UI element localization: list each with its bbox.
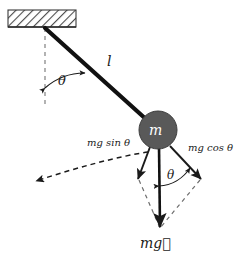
bob-mass-label: m (149, 122, 162, 138)
weight-label: mg⃗ (140, 236, 171, 250)
component-parallelogram (139, 180, 200, 228)
bob-angle-label: θ (167, 169, 174, 181)
mg-sin-theta-arrow (138, 147, 150, 179)
pendulum-figure: m θ l mg sin θ mg cos θ θ mg⃗ (0, 0, 242, 263)
angle-arc-bob (159, 168, 190, 186)
length-label: l (107, 54, 111, 68)
ceiling-support (8, 10, 76, 27)
pivot-angle-label: θ (58, 74, 66, 87)
mg-sin-theta-label: mg sin θ (87, 138, 130, 148)
diagram-canvas (0, 0, 242, 263)
mg-cos-theta-label: mg cos θ (188, 143, 233, 153)
trajectory-arc (36, 152, 148, 181)
